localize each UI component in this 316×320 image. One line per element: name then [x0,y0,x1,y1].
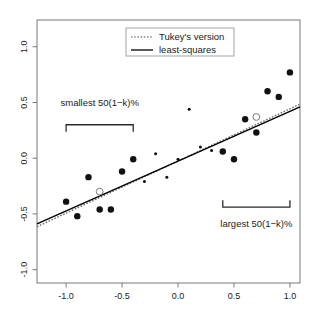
y-tick-label: 0.0 [19,152,29,165]
x-tick-label: -1.0 [58,291,74,301]
data-point-small [199,146,202,149]
centroid-marker [96,188,103,195]
y-tick-label: 0.5 [19,96,29,109]
x-tick-label: -0.5 [114,291,130,301]
data-point-large [287,69,293,75]
data-point-small [210,149,213,152]
data-point-large [119,168,125,174]
legend-label: least-squares [159,44,216,55]
data-point-large [130,156,136,162]
data-point-small [188,108,191,111]
chart-figure: -1.0-0.50.00.51.0-1.0-0.50.00.51.0smalle… [0,0,316,320]
centroid-marker [253,114,260,121]
data-point-large [74,213,80,219]
data-point-small [177,158,180,161]
legend-label: Tukey's version [159,31,224,42]
x-tick-label: 1.0 [284,291,297,301]
x-tick-label: 0.0 [172,291,185,301]
annotation-label: largest 50(1−k)% [220,218,293,229]
data-point-small [143,180,146,183]
data-point-large [108,206,114,212]
scatterplot-canvas: -1.0-0.50.00.51.0-1.0-0.50.00.51.0smalle… [0,0,316,320]
y-tick-label: -1.0 [19,262,29,278]
data-point-large [231,156,237,162]
data-point-large [96,206,102,212]
y-tick-label: 1.0 [19,40,29,53]
x-tick-label: 0.5 [228,291,241,301]
data-point-small [154,152,157,155]
data-point-large [242,116,248,122]
data-point-large [264,88,270,94]
y-tick-label: -0.5 [19,206,29,222]
data-point-small [165,176,168,179]
data-point-large [276,94,282,100]
data-point-large [63,198,69,204]
annotation-bracket [66,125,133,132]
data-point-large [220,148,226,154]
annotation-label: smallest 50(1−k)% [60,97,139,108]
data-point-large [253,129,259,135]
plot-frame [37,20,300,283]
data-point-large [85,174,91,180]
annotation-bracket [223,200,290,207]
